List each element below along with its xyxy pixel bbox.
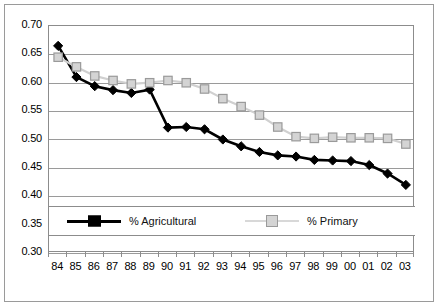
x-axis-tick-label: 94 xyxy=(230,260,250,272)
data-point xyxy=(328,133,336,141)
y-axis-tick-label: 0.60 xyxy=(0,75,42,87)
x-axis-tick-label: 92 xyxy=(194,260,214,272)
x-axis-tick xyxy=(85,252,86,257)
y-axis-tick-label: 0.70 xyxy=(0,18,42,30)
x-axis-tick-label: 93 xyxy=(212,260,232,272)
x-axis-tick xyxy=(304,252,305,257)
y-axis-tick-label: 0.55 xyxy=(0,103,42,115)
x-axis-tick xyxy=(194,252,195,257)
x-axis-tick xyxy=(176,252,177,257)
line-chart: 0.700.650.600.550.500.450.400.350.30 % A… xyxy=(0,0,440,308)
data-point xyxy=(108,86,117,95)
plot-area: % Agricultural% Primary xyxy=(48,25,414,252)
data-point xyxy=(292,132,300,140)
x-axis-tick xyxy=(66,252,67,257)
series-line-1 xyxy=(58,46,406,185)
legend-label: % Agricultural xyxy=(129,215,196,227)
data-point xyxy=(200,85,208,93)
data-point xyxy=(72,63,80,71)
data-point xyxy=(219,94,227,102)
data-point xyxy=(274,123,282,131)
x-axis-tick xyxy=(231,252,232,257)
x-axis-tick-label: 91 xyxy=(175,260,195,272)
x-axis-tick-label: 02 xyxy=(377,260,397,272)
x-axis-tick-label: 88 xyxy=(120,260,140,272)
x-axis-tick-label: 00 xyxy=(340,260,360,272)
legend-swatch-line xyxy=(245,220,299,222)
data-point xyxy=(127,88,136,97)
x-axis-tick xyxy=(323,252,324,257)
legend-marker xyxy=(88,216,101,227)
y-axis-tick-label: 0.65 xyxy=(0,46,42,58)
x-axis-tick-label: 97 xyxy=(285,260,305,272)
data-point xyxy=(182,122,191,131)
x-axis-tick-label: 99 xyxy=(322,260,342,272)
x-axis-tick-label: 86 xyxy=(84,260,104,272)
data-point xyxy=(365,160,374,169)
data-point xyxy=(237,142,246,151)
legend-marker xyxy=(266,215,278,227)
data-point xyxy=(163,123,172,132)
x-axis-tick-label: 01 xyxy=(358,260,378,272)
data-point xyxy=(310,155,319,164)
x-axis-tick-label: 95 xyxy=(248,260,268,272)
data-point xyxy=(273,151,282,160)
x-axis-tick-label: 89 xyxy=(139,260,159,272)
x-axis-tick-label: 84 xyxy=(47,260,67,272)
x-axis-tick xyxy=(359,252,360,257)
x-axis-tick xyxy=(413,252,414,257)
data-point xyxy=(310,134,318,142)
x-axis-tick xyxy=(213,252,214,257)
data-point xyxy=(109,76,117,84)
y-axis-tick-label: 0.40 xyxy=(0,188,42,200)
x-axis-tick-label: 85 xyxy=(65,260,85,272)
x-axis-tick xyxy=(249,252,250,257)
legend-swatch-line xyxy=(67,220,121,223)
x-axis-tick-label: 98 xyxy=(303,260,323,272)
data-point xyxy=(291,152,300,161)
x-axis-tick xyxy=(158,252,159,257)
legend-item-1: % Agricultural xyxy=(67,207,196,235)
x-axis-tick xyxy=(377,252,378,257)
data-point xyxy=(127,80,135,88)
legend-item-2: % Primary xyxy=(245,207,358,235)
x-axis-tick xyxy=(286,252,287,257)
x-axis-tick-label: 03 xyxy=(395,260,415,272)
x-axis-tick xyxy=(341,252,342,257)
x-axis-tick xyxy=(103,252,104,257)
data-point xyxy=(346,156,355,165)
data-point xyxy=(90,82,99,91)
y-axis-tick-label: 0.45 xyxy=(0,160,42,172)
data-point xyxy=(255,147,264,156)
series-line-2 xyxy=(58,57,406,144)
data-point xyxy=(91,72,99,80)
y-axis-tick-label: 0.35 xyxy=(0,217,42,229)
x-axis-tick xyxy=(140,252,141,257)
data-point xyxy=(328,156,337,165)
data-point xyxy=(54,53,62,61)
data-point xyxy=(145,79,153,87)
x-axis-tick xyxy=(48,252,49,257)
data-point xyxy=(164,76,172,84)
data-point xyxy=(237,102,245,110)
data-point xyxy=(347,134,355,142)
y-axis-tick-label: 0.50 xyxy=(0,132,42,144)
x-axis-tick-label: 90 xyxy=(157,260,177,272)
legend-label: % Primary xyxy=(307,215,358,227)
x-axis-tick-label: 96 xyxy=(267,260,287,272)
data-point xyxy=(255,111,263,119)
data-point xyxy=(182,79,190,87)
data-point xyxy=(365,134,373,142)
y-axis-tick-label: 0.30 xyxy=(0,245,42,257)
x-axis-tick xyxy=(396,252,397,257)
x-axis-tick xyxy=(121,252,122,257)
chart-legend: % Agricultural% Primary xyxy=(49,206,415,236)
data-point xyxy=(383,134,391,142)
x-axis-tick xyxy=(268,252,269,257)
data-point xyxy=(402,140,410,148)
x-axis-tick-label: 87 xyxy=(102,260,122,272)
